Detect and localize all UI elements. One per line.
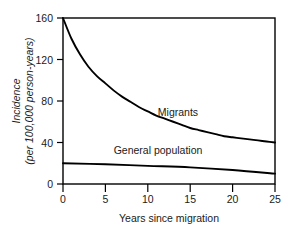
- x-tick-label-15: 15: [184, 193, 196, 205]
- x-axis-title: Years since migration: [119, 212, 219, 224]
- y-tick-label-0: 0: [47, 178, 53, 190]
- x-axis-tick-labels: 0 5 10 15 20 25: [60, 193, 281, 205]
- series-line-migrants: [63, 18, 275, 143]
- chart-canvas: 160 120 80 40 0 0 5 10 15 20 25: [0, 0, 295, 235]
- x-tick-label-5: 5: [102, 193, 108, 205]
- series-annotation-migrants: Migrants: [158, 106, 198, 118]
- incidence-line-chart: 160 120 80 40 0 0 5 10 15 20 25: [0, 0, 295, 235]
- y-tick-label-120: 120: [35, 54, 53, 66]
- y-tick-label-80: 80: [41, 95, 53, 107]
- x-tick-label-10: 10: [142, 193, 154, 205]
- series-annotation-general-population: General population: [114, 144, 203, 156]
- x-tick-label-25: 25: [269, 193, 281, 205]
- y-axis-ticks: [57, 18, 63, 184]
- x-tick-label-20: 20: [227, 193, 239, 205]
- series-line-general-population: [63, 163, 275, 173]
- y-axis-title-line2: (per 100,000 person-years): [23, 37, 35, 164]
- y-tick-label-160: 160: [35, 12, 53, 24]
- x-axis-ticks: [63, 184, 275, 192]
- y-axis-tick-labels: 160 120 80 40 0: [35, 12, 53, 190]
- y-axis-title-line1: Incidence: [10, 78, 22, 123]
- plot-area-frame: [63, 18, 275, 184]
- x-tick-label-0: 0: [60, 193, 66, 205]
- y-tick-label-40: 40: [41, 137, 53, 149]
